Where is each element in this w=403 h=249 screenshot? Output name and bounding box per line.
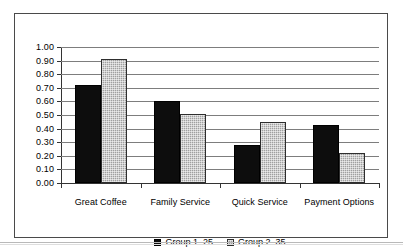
x-axis-category-label: Quick Service: [232, 197, 288, 207]
y-axis-tick: [57, 129, 61, 130]
x-axis-category-label: Great Coffee: [75, 197, 127, 207]
bar-chart: 0.000.100.200.300.400.500.600.700.800.90…: [15, 14, 389, 239]
x-axis-tick: [61, 183, 62, 188]
page-separator-rule: [0, 242, 403, 243]
x-axis-tick: [379, 183, 380, 188]
y-axis-tick-label: 0.20: [36, 151, 54, 161]
bar: [154, 101, 180, 183]
figure-frame: 0.000.100.200.300.400.500.600.700.800.90…: [14, 13, 388, 238]
y-axis-tick-label: 0.10: [36, 164, 54, 174]
x-axis-tick: [141, 183, 142, 188]
bar: [260, 122, 286, 183]
x-axis-tick: [300, 183, 301, 188]
y-axis-tick: [57, 47, 61, 48]
y-axis-tick: [57, 142, 61, 143]
y-axis-tick-label: 0.90: [36, 56, 54, 66]
bar: [180, 114, 206, 183]
bar: [313, 125, 339, 183]
x-axis-category-label: Payment Options: [304, 197, 374, 207]
bar: [339, 153, 365, 183]
x-axis-category-label: Family Service: [150, 197, 210, 207]
y-axis-tick: [57, 74, 61, 75]
y-axis-tick-label: 0.00: [36, 178, 54, 188]
y-axis-tick: [57, 156, 61, 157]
gridline: [61, 47, 379, 48]
y-axis-tick: [57, 115, 61, 116]
y-axis-tick: [57, 61, 61, 62]
plot-area: 0.000.100.200.300.400.500.600.700.800.90…: [61, 47, 379, 183]
y-axis-tick: [57, 88, 61, 89]
y-axis-tick-label: 0.80: [36, 69, 54, 79]
y-axis-tick: [57, 101, 61, 102]
y-axis-tick-label: 0.40: [36, 124, 54, 134]
bar: [75, 85, 101, 183]
y-axis-tick: [57, 169, 61, 170]
y-axis-tick-label: 0.30: [36, 137, 54, 147]
page-separator-rule-shadow: [0, 244, 403, 245]
y-axis-tick-label: 1.00: [36, 42, 54, 52]
y-axis-tick-label: 0.60: [36, 96, 54, 106]
y-axis-tick-label: 0.50: [36, 110, 54, 120]
bar: [234, 145, 260, 183]
y-axis-tick-label: 0.70: [36, 83, 54, 93]
x-axis-tick: [220, 183, 221, 188]
bar: [101, 59, 127, 183]
